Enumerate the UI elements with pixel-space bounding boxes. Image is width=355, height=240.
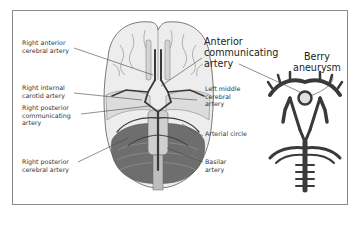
label-right-internal-carotid-artery: Right internal carotid artery: [22, 84, 65, 99]
label-right-posterior-communicating-artery: Right posterior communicating artery: [22, 104, 71, 127]
label-anterior-communicating-artery: Anterior communicating artery: [204, 36, 278, 69]
label-berry-aneurysm: Berry aneurysm: [293, 51, 341, 73]
label-right-posterior-cerebral-artery: Right posterior cerebral artery: [22, 158, 69, 173]
label-basilar-artery: Basilar artery: [205, 158, 226, 173]
berry-aneurysm-icon: [268, 72, 342, 190]
label-right-anterior-cerebral-artery: Right anterior cerebral artery: [22, 39, 69, 54]
label-arterial-circle: Arterial circle: [205, 130, 247, 138]
label-left-middle-cerebral-artery: Left middle cerebral artery: [205, 85, 240, 108]
